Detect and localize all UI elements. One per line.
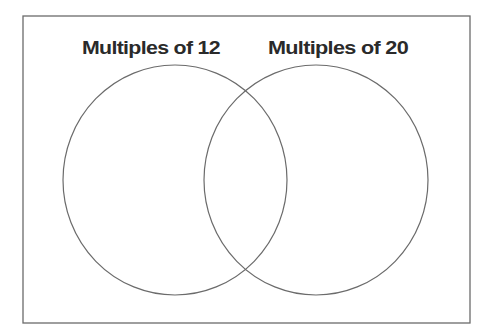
set-label-right: Multiples of 20 (268, 37, 408, 58)
venn-diagram: Multiples of 12 Multiples of 20 (0, 0, 495, 335)
diagram-frame (23, 16, 470, 323)
set-label-left: Multiples of 12 (82, 37, 220, 58)
